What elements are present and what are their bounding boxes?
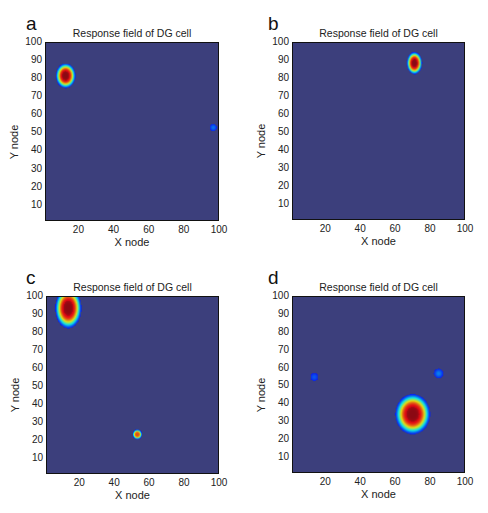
x-tick-label: 80 [178,225,189,235]
x-tick-label: 60 [390,477,401,487]
heatmap-plot-area [45,42,219,221]
panel-letter: a [26,14,37,33]
y-tick-label: 10 [21,453,43,463]
y-axis-label: Y node [256,124,267,159]
y-tick-label: 70 [20,91,42,101]
panel-letter: d [268,268,279,287]
y-tick-label: 100 [21,291,43,301]
y-tick-label: 80 [20,73,42,83]
chart-title: Response field of DG cell [319,282,437,293]
heatmap-plot-area [46,296,219,474]
y-tick-label: 10 [20,200,42,210]
x-axis-label: X node [361,489,396,500]
x-axis-label: X node [115,237,150,248]
x-tick-label: 100 [211,225,228,235]
y-tick-label: 30 [267,163,289,173]
y-tick-label: 70 [21,345,43,355]
x-tick-label: 80 [178,478,189,488]
y-tick-label: 90 [267,55,289,65]
heatmap-canvas [47,297,218,473]
x-tick-label: 80 [424,224,435,234]
heatmap-canvas [293,43,464,219]
y-tick-label: 70 [267,91,289,101]
y-tick-label: 80 [267,73,289,83]
x-tick-label: 60 [390,224,401,234]
x-tick-label: 100 [457,224,474,234]
chart-title: Response field of DG cell [73,28,191,39]
x-tick-label: 40 [355,477,366,487]
x-tick-label: 60 [144,478,155,488]
y-tick-label: 20 [267,181,289,191]
y-axis-label: Y node [256,377,267,412]
heatmap-canvas [46,43,218,220]
y-tick-label: 60 [267,109,289,119]
y-tick-label: 90 [267,309,289,319]
y-tick-label: 80 [267,327,289,337]
y-tick-label: 80 [21,327,43,337]
x-axis-label: X node [361,236,396,247]
heatmap-canvas [293,297,464,472]
y-tick-label: 90 [21,309,43,319]
chart-title: Response field of DG cell [73,282,191,293]
y-tick-label: 40 [267,398,289,408]
y-axis-label: Y node [9,124,20,159]
y-tick-label: 50 [267,127,289,137]
y-tick-label: 30 [20,164,42,174]
y-tick-label: 20 [267,434,289,444]
y-tick-label: 40 [21,399,43,409]
x-tick-label: 40 [355,224,366,234]
y-tick-label: 10 [267,199,289,209]
x-tick-label: 20 [320,477,331,487]
x-tick-label: 100 [457,477,474,487]
y-tick-label: 30 [267,416,289,426]
y-tick-label: 10 [267,452,289,462]
heatmap-plot-area [292,42,465,220]
y-tick-label: 100 [20,37,42,47]
y-tick-label: 60 [20,109,42,119]
y-tick-label: 20 [21,435,43,445]
y-tick-label: 100 [267,37,289,47]
x-tick-label: 20 [320,224,331,234]
x-axis-label: X node [115,490,150,501]
y-tick-label: 50 [20,127,42,137]
y-tick-label: 20 [20,182,42,192]
panel-letter: b [268,14,279,33]
x-tick-label: 80 [424,477,435,487]
heatmap-plot-area [292,296,465,473]
y-tick-label: 60 [21,363,43,373]
y-tick-label: 60 [267,363,289,373]
x-tick-label: 60 [143,225,154,235]
y-tick-label: 50 [267,380,289,390]
y-tick-label: 90 [20,55,42,65]
y-tick-label: 100 [267,291,289,301]
panel-letter: c [26,268,36,287]
y-tick-label: 50 [21,381,43,391]
y-tick-label: 30 [21,417,43,427]
x-tick-label: 100 [211,478,228,488]
y-axis-label: Y node [10,378,21,413]
x-tick-label: 20 [73,225,84,235]
y-tick-label: 40 [20,145,42,155]
x-tick-label: 20 [74,478,85,488]
x-tick-label: 40 [109,478,120,488]
y-tick-label: 40 [267,145,289,155]
y-tick-label: 70 [267,345,289,355]
chart-title: Response field of DG cell [319,28,437,39]
x-tick-label: 40 [108,225,119,235]
